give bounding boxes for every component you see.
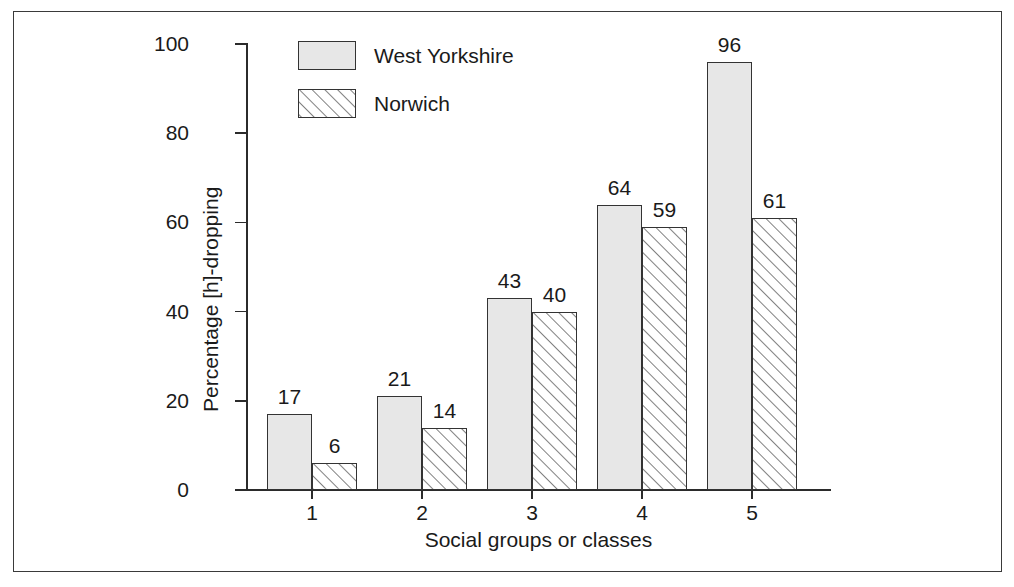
y-tick-label: 60 (143, 211, 189, 232)
y-tick-mark (235, 132, 246, 134)
x-tick-label: 5 (732, 501, 772, 525)
bar-value-label: 40 (525, 284, 585, 305)
legend-label: West Yorkshire (374, 43, 514, 68)
y-tick-mark (235, 311, 246, 313)
y-tick-label: 40 (143, 301, 189, 322)
bar-value-label: 61 (745, 190, 805, 211)
bar-norwich-group-3 (532, 312, 577, 490)
x-tick-mark (751, 490, 753, 499)
bar-west-yorkshire-group-5 (707, 62, 752, 490)
bar-norwich-group-1 (312, 463, 357, 490)
bar-value-label: 59 (635, 199, 695, 220)
x-axis-title: Social groups or classes (247, 528, 830, 552)
y-axis-title: Percentage [h]-dropping (200, 187, 222, 412)
x-tick-label: 2 (402, 501, 442, 525)
bar-value-label: 17 (260, 386, 320, 407)
x-tick-mark (311, 490, 313, 499)
bar-norwich-group-4 (642, 227, 687, 490)
bar-norwich-group-2 (422, 428, 467, 490)
bar-value-label: 6 (305, 435, 365, 456)
diagonal-hatch-swatch (298, 89, 356, 118)
y-tick-mark (235, 400, 246, 402)
bar-value-label: 21 (370, 368, 430, 389)
x-tick-mark (531, 490, 533, 499)
hatch-pattern-fill (313, 464, 356, 489)
figure-canvas: 020406080100 Percentage [h]-dropping 176… (0, 0, 1014, 587)
y-axis-line (246, 43, 248, 491)
x-tick-mark (421, 490, 423, 499)
hatch-pattern-fill (533, 313, 576, 489)
x-tick-mark (641, 490, 643, 499)
x-tick-label: 1 (292, 501, 332, 525)
y-tick-label: 20 (143, 390, 189, 411)
hatch-pattern-fill (423, 429, 466, 489)
y-tick-label: 80 (143, 122, 189, 143)
y-tick-label: 100 (143, 33, 189, 54)
legend-item-west-yorkshire: West Yorkshire (298, 41, 558, 71)
x-tick-label: 4 (622, 501, 662, 525)
legend-label: Norwich (374, 91, 450, 116)
hatch-pattern-fill (643, 228, 686, 489)
hatch-pattern-fill (753, 219, 796, 489)
bar-value-label: 14 (415, 400, 475, 421)
hatch-pattern-fill (299, 90, 355, 117)
y-tick-mark (235, 489, 246, 491)
bar-norwich-group-5 (752, 218, 797, 490)
solid-gray-swatch (298, 41, 356, 70)
bar-value-label: 96 (700, 34, 760, 55)
bar-west-yorkshire-group-3 (487, 298, 532, 490)
y-tick-mark (235, 222, 246, 224)
x-tick-label: 3 (512, 501, 552, 525)
bar-west-yorkshire-group-4 (597, 205, 642, 490)
y-tick-mark (235, 43, 246, 45)
bar-value-label: 64 (590, 177, 650, 198)
y-tick-label: 0 (143, 479, 189, 500)
legend-item-norwich: Norwich (298, 89, 558, 119)
